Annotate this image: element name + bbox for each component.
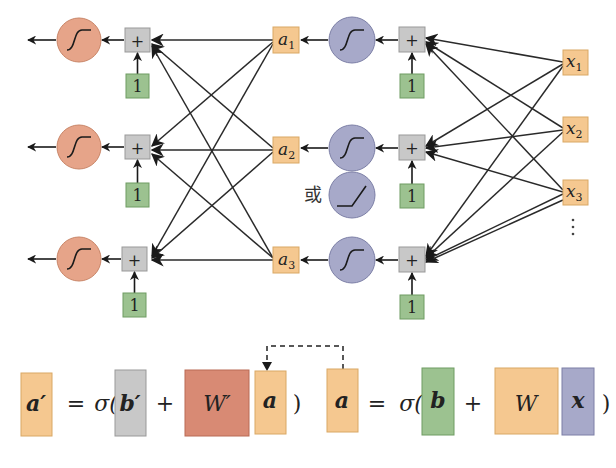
equation-right: a = σ( b + W x ) bbox=[327, 368, 610, 435]
output-unit-3: + 1 bbox=[28, 237, 147, 317]
sigmoid-icon bbox=[57, 237, 101, 281]
sigmoid-icon bbox=[57, 125, 101, 169]
svg-text:+: + bbox=[156, 391, 174, 416]
plus-icon: + bbox=[405, 251, 418, 270]
activation-a3: a3 bbox=[273, 247, 299, 273]
svg-text:W: W bbox=[515, 391, 540, 416]
activation-a2: a2 bbox=[273, 137, 299, 163]
ellipsis-icon bbox=[572, 219, 575, 236]
relu-icon bbox=[329, 172, 375, 218]
svg-text:1: 1 bbox=[407, 187, 417, 206]
plus-icon: + bbox=[128, 251, 141, 270]
neural-network-diagram: + 1 + 1 + 1 bbox=[0, 0, 616, 468]
svg-text:a′: a′ bbox=[26, 390, 46, 416]
output-unit-1: + 1 bbox=[28, 18, 150, 98]
svg-text:1: 1 bbox=[407, 298, 417, 317]
svg-text:1: 1 bbox=[129, 296, 139, 315]
svg-text:b: b bbox=[430, 387, 445, 413]
plus-icon: + bbox=[405, 31, 418, 50]
sigmoid-icon bbox=[329, 237, 375, 283]
sigmoid-icon bbox=[329, 125, 375, 171]
svg-text:=: = bbox=[368, 391, 386, 416]
hidden-unit-3: + 1 bbox=[301, 237, 425, 319]
hidden-activations: a1 a2 a3 bbox=[273, 27, 299, 273]
output-unit-2: + 1 bbox=[28, 125, 150, 207]
sigmoid-icon bbox=[329, 17, 375, 63]
dashed-link bbox=[267, 346, 343, 369]
output-layer: + 1 + 1 + 1 bbox=[28, 18, 150, 317]
input-x2: x2 bbox=[563, 117, 588, 142]
svg-text:): ) bbox=[602, 391, 611, 416]
alt-relu-activation: 或 bbox=[304, 172, 375, 218]
edges-hidden-to-output bbox=[152, 40, 273, 260]
input-layer: x1 x2 x3 bbox=[563, 50, 588, 235]
svg-text:1: 1 bbox=[132, 186, 142, 205]
edges-input-to-hidden bbox=[426, 38, 563, 262]
activation-a1: a1 bbox=[273, 27, 299, 53]
svg-text:=: = bbox=[67, 391, 85, 416]
plus-icon: + bbox=[405, 139, 418, 158]
hidden-unit-1: + 1 bbox=[301, 17, 425, 98]
plus-icon: + bbox=[131, 32, 144, 51]
svg-text:W′: W′ bbox=[203, 391, 231, 416]
svg-text:1: 1 bbox=[132, 77, 142, 96]
plus-icon: + bbox=[131, 139, 144, 158]
svg-text:a: a bbox=[335, 387, 349, 413]
svg-text:σ(: σ( bbox=[399, 391, 423, 416]
svg-text:1: 1 bbox=[407, 77, 417, 96]
input-x3: x3 bbox=[563, 180, 588, 205]
arrow-down-icon bbox=[262, 362, 272, 371]
sigmoid-icon bbox=[57, 18, 101, 62]
svg-text:b′: b′ bbox=[119, 390, 140, 416]
equation-left: a′ = σ( b′ + W′ a ) bbox=[21, 370, 301, 436]
diagram-canvas: + 1 + 1 + 1 bbox=[0, 0, 616, 468]
svg-text:x: x bbox=[570, 387, 585, 413]
or-label: 或 bbox=[304, 184, 322, 205]
input-x1: x1 bbox=[563, 50, 588, 75]
svg-text:a: a bbox=[263, 387, 277, 413]
svg-text:): ) bbox=[293, 391, 302, 416]
svg-text:+: + bbox=[464, 391, 482, 416]
hidden-layer: + 1 + 1 或 + bbox=[301, 17, 425, 319]
